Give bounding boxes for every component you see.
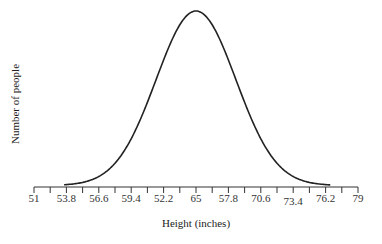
x-tick-label: 52.2 bbox=[154, 192, 173, 204]
x-tick-label: 73.4 bbox=[284, 195, 304, 207]
x-tick-label: 56.6 bbox=[89, 192, 109, 204]
x-tick-label: 59.4 bbox=[122, 192, 142, 204]
x-tick-label: 70.6 bbox=[251, 192, 271, 204]
x-tick-label: 79 bbox=[353, 192, 365, 204]
x-tick-label: 65 bbox=[191, 192, 203, 204]
x-axis-title: Height (inches) bbox=[162, 217, 230, 230]
x-axis-tick-labels: 5153.856.659.452.26557.870.673.476.279 bbox=[29, 192, 365, 207]
y-axis-title: Number of people bbox=[9, 64, 21, 144]
bell-curve-chart: 5153.856.659.452.26557.870.673.476.279 H… bbox=[0, 0, 382, 244]
x-tick-label: 76.2 bbox=[316, 192, 335, 204]
distribution-curve bbox=[64, 11, 330, 185]
x-tick-label: 51 bbox=[29, 192, 40, 204]
x-tick-label: 57.8 bbox=[219, 192, 239, 204]
x-tick-label: 53.8 bbox=[57, 192, 77, 204]
